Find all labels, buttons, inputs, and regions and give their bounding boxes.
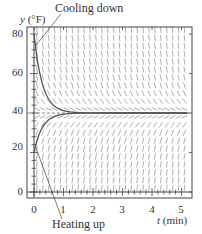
y-axis-label: y (°F) xyxy=(20,14,45,25)
cooling-annotation-label: Cooling down xyxy=(55,3,123,14)
y-tick-label-80: 80 xyxy=(5,28,23,39)
x-axis-unit: (min) xyxy=(160,214,187,226)
x-tick-label-3: 3 xyxy=(116,204,128,215)
heating-annotation-label: Heating up xyxy=(52,219,105,230)
x-tick-label-1: 1 xyxy=(57,204,69,215)
y-tick-label-40: 40 xyxy=(5,105,23,116)
y-tick-label-20: 20 xyxy=(5,141,23,152)
cooling-curve xyxy=(34,34,187,113)
slope-field-chart xyxy=(0,0,202,234)
y-tick-label-60: 60 xyxy=(5,67,23,78)
x-tick-label-2: 2 xyxy=(87,204,99,215)
slope-field xyxy=(34,27,187,191)
heating-curve xyxy=(34,113,187,153)
x-tick-label-0: 0 xyxy=(28,204,40,215)
y-axis-unit: (°F) xyxy=(25,13,46,25)
x-axis-label: t (min) xyxy=(157,215,187,226)
y-tick-label-0: 0 xyxy=(5,186,23,197)
